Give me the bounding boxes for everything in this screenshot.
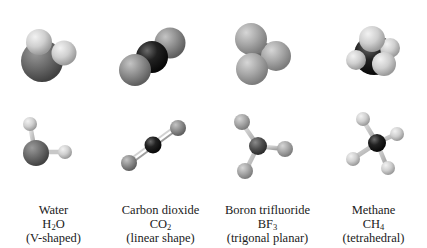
co2-space-filling-model — [107, 18, 214, 96]
molecule-shape: (V-shaped) — [0, 231, 107, 245]
hydrogen-atom — [359, 26, 385, 52]
bf3-space-filling-model — [214, 18, 321, 96]
oxygen-atom — [170, 120, 186, 136]
molecule-boron-trifluoride: Boron trifluoride BF3 (trigonal planar) — [214, 0, 321, 248]
hydrogen-atom — [346, 50, 366, 70]
water-space-filling-model — [0, 18, 107, 96]
hydrogen-atom — [372, 52, 396, 76]
water-caption: Water H2O (V-shaped) — [0, 203, 107, 245]
fluorine-atom — [237, 163, 253, 179]
molecule-shape: (trigonal planar) — [214, 231, 321, 245]
fluorine-atom — [236, 53, 268, 85]
hydrogen-atom — [346, 152, 360, 166]
molecule-formula: H2O — [0, 217, 107, 231]
molecule-formula: CH4 — [320, 217, 427, 231]
fluorine-atom — [234, 114, 250, 130]
carbon-atom — [368, 134, 386, 152]
hydrogen-atom — [381, 161, 395, 175]
co2-ball-and-stick-model — [107, 105, 214, 185]
oxygen-atom — [23, 140, 49, 166]
molecule-methane: Methane CH4 (tetrahedral) — [320, 0, 427, 248]
fluorine-atom — [277, 141, 293, 157]
molecule-name: Boron trifluoride — [214, 203, 321, 217]
ch4-space-filling-model — [320, 18, 427, 96]
oxygen-atom — [121, 155, 137, 171]
co2-caption: Carbon dioxide CO2 (linear shape) — [107, 203, 214, 245]
molecule-name: Carbon dioxide — [107, 203, 214, 217]
molecule-shape: (linear shape) — [107, 231, 214, 245]
hydrogen-atom — [26, 29, 52, 55]
molecule-water: Water H2O (V-shaped) — [0, 0, 107, 248]
oxygen-atom — [119, 54, 151, 86]
bf3-caption: Boron trifluoride BF3 (trigonal planar) — [214, 203, 321, 245]
molecule-shape: (tetrahedral) — [320, 231, 427, 245]
hydrogen-atom — [52, 41, 77, 66]
carbon-atom — [145, 137, 162, 154]
hydrogen-atom — [23, 117, 37, 131]
molecule-carbon-dioxide: Carbon dioxide CO2 (linear shape) — [107, 0, 214, 248]
molecule-name: Methane — [320, 203, 427, 217]
hydrogen-atom — [390, 127, 404, 141]
hydrogen-atom — [58, 145, 72, 159]
fluorine-atom — [235, 23, 267, 55]
ch4-caption: Methane CH4 (tetrahedral) — [320, 203, 427, 245]
molecule-formula: BF3 — [214, 217, 321, 231]
bf3-ball-and-stick-model — [214, 105, 321, 185]
molecule-name: Water — [0, 203, 107, 217]
ch4-ball-and-stick-model — [320, 105, 427, 185]
water-ball-and-stick-model — [0, 105, 107, 185]
hydrogen-atom — [356, 112, 370, 126]
boron-atom — [249, 137, 267, 155]
molecule-formula: CO2 — [107, 217, 214, 231]
